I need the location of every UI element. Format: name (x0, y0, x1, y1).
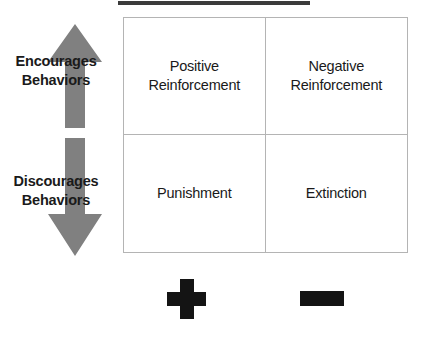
axis-label-discourages-behaviors: Discourages Behaviors (0, 172, 112, 210)
quadrant-positive-reinforcement-line2: Reinforcement (148, 76, 240, 95)
plus-icon-vertical-bar (180, 279, 194, 319)
title-underline-rule (118, 1, 310, 5)
axis-label-discourages-line1: Discourages (0, 172, 112, 191)
quadrant-punishment-line1: Punishment (157, 184, 232, 203)
axis-label-discourages-line2: Behaviors (0, 191, 112, 210)
quadrant-extinction: Extinction (266, 135, 408, 252)
quadrant-negative-reinforcement-line1: Negative (290, 57, 382, 76)
plus-icon (167, 279, 206, 319)
axis-label-encourages-behaviors: Encourages Behaviors (0, 52, 112, 90)
axis-label-encourages-line1: Encourages (0, 52, 112, 71)
quadrant-positive-reinforcement-line1: Positive (148, 57, 240, 76)
quadrant-punishment: Punishment (124, 135, 266, 252)
quadrant-extinction-line1: Extinction (306, 184, 367, 203)
quadrant-negative-reinforcement: Negative Reinforcement (266, 18, 408, 135)
quadrant-positive-reinforcement: Positive Reinforcement (124, 18, 266, 135)
minus-icon (300, 291, 344, 306)
quadrant-grid: Positive Reinforcement Negative Reinforc… (123, 17, 408, 253)
quadrant-negative-reinforcement-line2: Reinforcement (290, 76, 382, 95)
diagram-canvas: Operant Conditioning Encourages Behavior… (0, 0, 423, 337)
axis-label-encourages-line2: Behaviors (0, 71, 112, 90)
